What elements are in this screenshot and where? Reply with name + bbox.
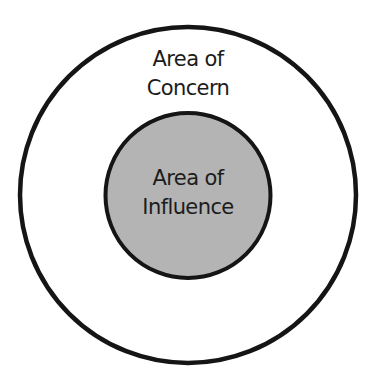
area-of-influence-label-line-2: Influence bbox=[0, 193, 376, 222]
area-of-influence-label: Area of Influence bbox=[0, 164, 376, 222]
concentric-circles-diagram: Area of Concern Area of Influence bbox=[0, 0, 376, 392]
area-of-influence-label-line-1: Area of bbox=[0, 164, 376, 193]
area-of-concern-label: Area of Concern bbox=[0, 45, 376, 103]
area-of-concern-label-line-2: Concern bbox=[0, 74, 376, 103]
area-of-concern-label-line-1: Area of bbox=[0, 45, 376, 74]
